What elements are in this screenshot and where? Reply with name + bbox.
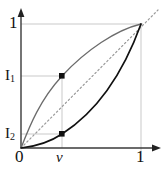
i1-subscript: 1: [10, 73, 15, 84]
y-tick-label-one: 1: [9, 14, 18, 31]
point-i1-marker: [59, 73, 65, 79]
plot-canvas: [0, 0, 165, 171]
equality-diagonal-line: [21, 10, 158, 148]
y-tick-label-i1: I1: [5, 68, 15, 84]
y-tick-label-i2: I2: [5, 126, 15, 142]
y-axis-arrow-icon: [18, 8, 25, 17]
x-axis-arrow-icon: [152, 145, 161, 152]
origin-label: 0: [15, 148, 24, 165]
gridlines: [21, 24, 143, 160]
point-i2-marker: [59, 131, 65, 137]
i2-subscript: 2: [10, 131, 15, 142]
lorenz-curve-figure: 1 I1 I2 0 v 1: [0, 0, 165, 171]
x-tick-label-v: v: [56, 150, 63, 165]
x-tick-label-one: 1: [136, 148, 145, 165]
